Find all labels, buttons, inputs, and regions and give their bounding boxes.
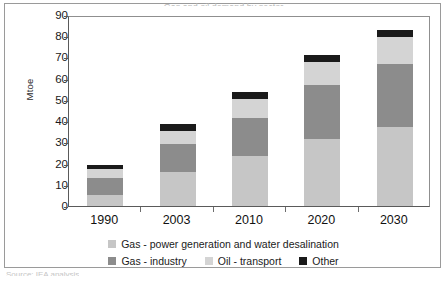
bar-segment[interactable] xyxy=(87,178,123,195)
bar-segment[interactable] xyxy=(232,156,268,206)
legend-item[interactable]: Other xyxy=(299,255,338,267)
bar-group[interactable] xyxy=(304,55,340,206)
x-axis-tick-labels: 19902003201020202030 xyxy=(68,212,430,230)
legend-swatch-icon xyxy=(299,257,307,265)
bar-segment[interactable] xyxy=(377,37,413,64)
bar-group[interactable] xyxy=(377,30,413,206)
legend-label: Other xyxy=(312,255,338,267)
figure-frame: Gas and oil demand by sector Mtoe 908070… xyxy=(4,3,441,268)
x-tick-label: 2030 xyxy=(358,212,430,228)
bar-segment[interactable] xyxy=(232,99,268,118)
bar-group[interactable] xyxy=(87,165,123,206)
bar-segment[interactable] xyxy=(377,127,413,206)
x-tick-label: 2010 xyxy=(213,212,285,228)
legend-item[interactable]: Oil - transport xyxy=(205,255,282,267)
source-caption: Source: IEA analysis xyxy=(6,270,79,276)
bar-segment[interactable] xyxy=(160,172,196,206)
chart-page: Gas and oil demand by sector Mtoe 908070… xyxy=(0,0,445,282)
bar-segment[interactable] xyxy=(304,62,340,85)
bar-segment[interactable] xyxy=(87,165,123,169)
legend-swatch-icon xyxy=(108,240,116,248)
legend-label: Gas - power generation and water desalin… xyxy=(121,238,339,250)
bar-segment[interactable] xyxy=(232,118,268,156)
bar-segment[interactable] xyxy=(160,124,196,130)
legend-row: Gas - industryOil - transportOther xyxy=(5,252,442,269)
legend: Gas - power generation and water desalin… xyxy=(5,235,442,269)
chart-title: Gas and oil demand by sector xyxy=(5,2,442,6)
x-tick-label: 1990 xyxy=(68,212,140,228)
plot-area xyxy=(68,16,430,207)
legend-swatch-icon xyxy=(108,257,116,265)
bar-segment[interactable] xyxy=(304,85,340,139)
legend-swatch-icon xyxy=(205,257,213,265)
bar-segment[interactable] xyxy=(304,139,340,206)
bar-segment[interactable] xyxy=(87,169,123,179)
bar-segment[interactable] xyxy=(232,92,268,98)
legend-label: Oil - transport xyxy=(218,255,282,267)
bar-segment[interactable] xyxy=(160,131,196,145)
x-tick-label: 2003 xyxy=(140,212,212,228)
x-tick-label: 2020 xyxy=(285,212,357,228)
bar-segment[interactable] xyxy=(377,64,413,128)
bar-segment[interactable] xyxy=(160,144,196,172)
bar-segment[interactable] xyxy=(377,30,413,37)
bar-group[interactable] xyxy=(232,92,268,206)
legend-label: Gas - industry xyxy=(121,255,186,267)
legend-item[interactable]: Gas - power generation and water desalin… xyxy=(108,238,339,250)
legend-row: Gas - power generation and water desalin… xyxy=(5,235,442,252)
bar-group[interactable] xyxy=(160,124,196,206)
bar-segment[interactable] xyxy=(304,55,340,61)
y-axis-title: Mtoe xyxy=(24,60,35,120)
legend-item[interactable]: Gas - industry xyxy=(108,255,186,267)
bar-segment[interactable] xyxy=(87,195,123,206)
